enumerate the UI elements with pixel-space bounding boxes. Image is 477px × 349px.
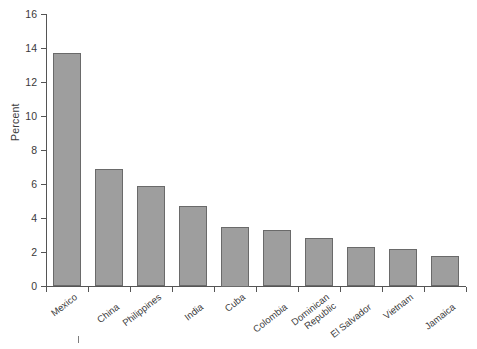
y-tick-label: 2 [16, 247, 37, 257]
y-tick-mark [41, 218, 46, 219]
y-tick-mark [41, 48, 46, 49]
x-tick-mark [466, 287, 467, 292]
bar [53, 53, 81, 286]
x-tick-mark [46, 287, 47, 292]
x-tick-mark [88, 287, 89, 292]
y-axis-line [46, 14, 47, 286]
x-tick-mark [298, 287, 299, 292]
y-tick-label: 10 [16, 111, 37, 121]
x-tick-mark [172, 287, 173, 292]
bar [221, 227, 249, 287]
y-tick-label: 0 [16, 281, 37, 291]
bar [431, 256, 459, 286]
bar [179, 206, 207, 286]
stray-tick-mark [78, 336, 79, 343]
y-tick-label: 6 [16, 179, 37, 189]
bar [137, 186, 165, 286]
y-tick-label: 14 [16, 43, 37, 53]
bar [305, 238, 333, 286]
y-tick-mark [41, 82, 46, 83]
y-tick-label: 12 [16, 77, 37, 87]
y-axis-title: Percent [9, 61, 23, 141]
bar [347, 247, 375, 286]
bar [389, 249, 417, 286]
x-tick-mark [340, 287, 341, 292]
y-tick-mark [41, 252, 46, 253]
y-tick-mark [41, 116, 46, 117]
x-tick-mark [214, 287, 215, 292]
x-tick-mark [382, 287, 383, 292]
y-tick-label: 4 [16, 213, 37, 223]
bar [263, 230, 291, 286]
y-tick-mark [41, 150, 46, 151]
bar [95, 169, 123, 286]
y-tick-mark [41, 14, 46, 15]
x-tick-mark [256, 287, 257, 292]
y-tick-label: 16 [16, 9, 37, 19]
y-tick-label: 8 [16, 145, 37, 155]
x-tick-mark [424, 287, 425, 292]
x-tick-mark [130, 287, 131, 292]
bar-chart-figure: Percent 1614121086420 MexicoChinaPhilipp… [0, 0, 477, 349]
y-tick-mark [41, 184, 46, 185]
